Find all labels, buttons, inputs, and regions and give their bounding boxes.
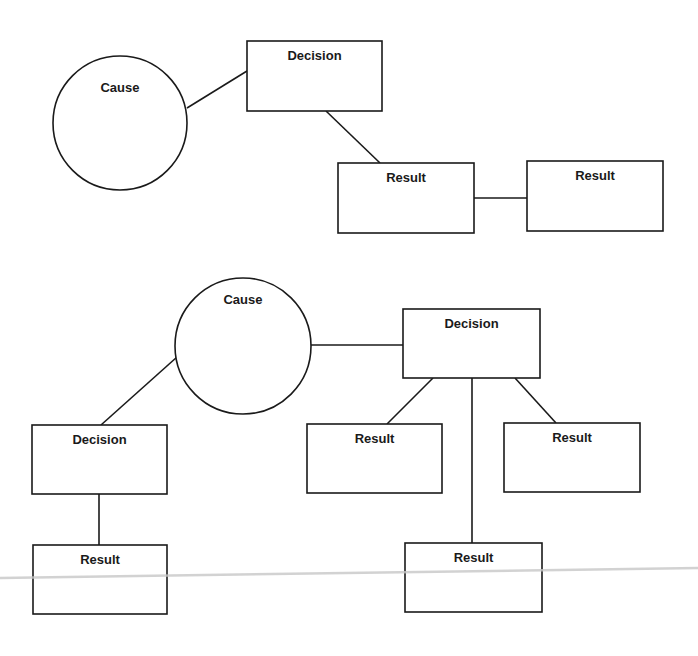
- node-decision1: Decision: [247, 41, 382, 111]
- node-label: Result: [575, 168, 615, 183]
- cause-circle: [53, 56, 187, 190]
- node-result1: Result: [338, 163, 474, 233]
- node-label: Result: [80, 552, 120, 567]
- node-result3: Result: [307, 424, 442, 493]
- connector-cause1-to-decision1: [187, 71, 247, 108]
- diagram-2-nodes: CauseDecisionDecisionResultResultResultR…: [32, 278, 640, 614]
- node-result4: Result: [504, 423, 640, 492]
- node-decision3: Decision: [32, 425, 167, 494]
- node-decision2: Decision: [403, 309, 540, 378]
- connector-decision2-to-result3: [387, 378, 433, 424]
- cause-effect-diagram-canvas: CauseDecisionResultResultCauseDecisionDe…: [0, 0, 698, 656]
- node-label: Decision: [444, 316, 498, 331]
- node-label: Result: [552, 430, 592, 445]
- connector-decision1-to-result1: [326, 111, 380, 163]
- node-result5: Result: [405, 543, 542, 612]
- connector-cause2-to-decision3: [101, 357, 177, 425]
- node-label: Cause: [223, 292, 262, 307]
- node-label: Decision: [287, 48, 341, 63]
- node-label: Cause: [100, 80, 139, 95]
- node-label: Result: [355, 431, 395, 446]
- node-result2: Result: [527, 161, 663, 231]
- node-label: Result: [386, 170, 426, 185]
- node-cause2: Cause: [175, 278, 311, 414]
- diagram-1-nodes: CauseDecisionResultResult: [53, 41, 663, 233]
- diagram-nodes: CauseDecisionResultResultCauseDecisionDe…: [32, 41, 663, 614]
- node-label: Result: [454, 550, 494, 565]
- node-result6: Result: [33, 545, 167, 614]
- node-cause1: Cause: [53, 56, 187, 190]
- node-label: Decision: [72, 432, 126, 447]
- connector-decision2-to-result4: [515, 378, 556, 423]
